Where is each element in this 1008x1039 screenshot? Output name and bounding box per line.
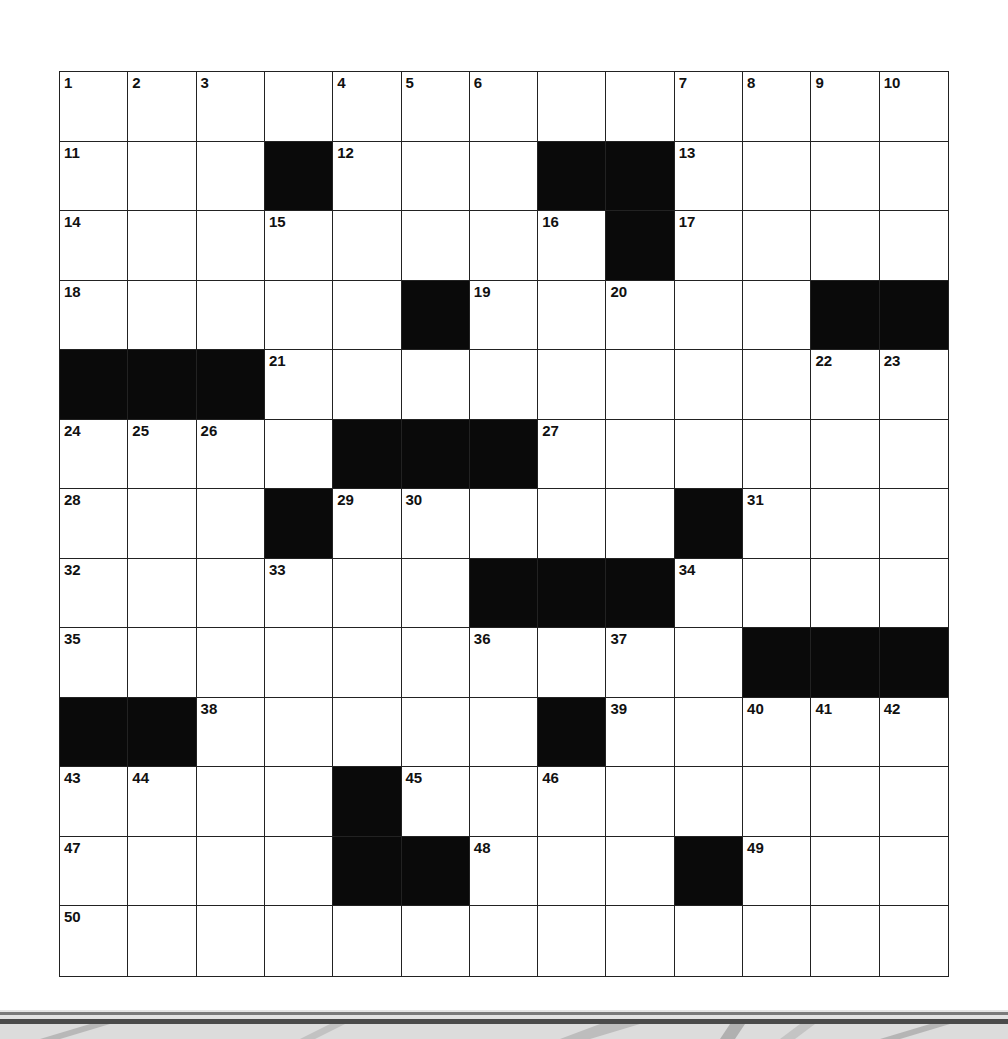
grid-cell[interactable]: 36 [470,628,538,698]
grid-cell[interactable]: 12 [333,142,401,212]
grid-cell[interactable] [333,698,401,768]
grid-cell[interactable]: 46 [538,767,606,837]
grid-cell[interactable] [606,906,674,976]
grid-cell[interactable] [743,420,811,490]
grid-cell[interactable]: 34 [675,559,743,629]
grid-cell[interactable] [197,489,265,559]
grid-cell[interactable] [265,72,333,142]
grid-cell[interactable]: 49 [743,837,811,907]
grid-cell[interactable]: 43 [60,767,128,837]
grid-cell[interactable] [675,906,743,976]
grid-cell[interactable] [128,837,196,907]
grid-cell[interactable]: 45 [402,767,470,837]
grid-cell[interactable] [743,350,811,420]
grid-cell[interactable] [538,837,606,907]
grid-cell[interactable]: 13 [675,142,743,212]
grid-cell[interactable]: 29 [333,489,401,559]
grid-cell[interactable] [538,906,606,976]
grid-cell[interactable] [880,906,948,976]
grid-cell[interactable] [128,489,196,559]
grid-cell[interactable] [675,281,743,351]
grid-cell[interactable]: 16 [538,211,606,281]
grid-cell[interactable] [743,211,811,281]
grid-cell[interactable]: 18 [60,281,128,351]
grid-cell[interactable] [470,211,538,281]
grid-cell[interactable] [402,698,470,768]
grid-cell[interactable] [128,559,196,629]
grid-cell[interactable] [402,350,470,420]
grid-cell[interactable]: 7 [675,72,743,142]
grid-cell[interactable] [333,628,401,698]
grid-cell[interactable] [333,350,401,420]
grid-cell[interactable] [675,628,743,698]
grid-cell[interactable]: 37 [606,628,674,698]
grid-cell[interactable] [265,420,333,490]
grid-cell[interactable]: 38 [197,698,265,768]
grid-cell[interactable]: 23 [880,350,948,420]
grid-cell[interactable] [606,489,674,559]
grid-cell[interactable] [811,906,879,976]
grid-cell[interactable]: 8 [743,72,811,142]
grid-cell[interactable]: 20 [606,281,674,351]
grid-cell[interactable]: 41 [811,698,879,768]
grid-cell[interactable]: 19 [470,281,538,351]
grid-cell[interactable] [538,281,606,351]
grid-cell[interactable]: 47 [60,837,128,907]
grid-cell[interactable] [197,559,265,629]
grid-cell[interactable] [197,628,265,698]
grid-cell[interactable]: 32 [60,559,128,629]
grid-cell[interactable] [402,628,470,698]
grid-cell[interactable] [811,420,879,490]
grid-cell[interactable]: 35 [60,628,128,698]
grid-cell[interactable] [197,211,265,281]
grid-cell[interactable] [880,559,948,629]
grid-cell[interactable] [333,281,401,351]
grid-cell[interactable]: 33 [265,559,333,629]
grid-cell[interactable] [743,559,811,629]
grid-cell[interactable]: 10 [880,72,948,142]
grid-cell[interactable] [333,211,401,281]
grid-cell[interactable] [128,628,196,698]
grid-cell[interactable] [128,906,196,976]
grid-cell[interactable]: 44 [128,767,196,837]
grid-cell[interactable] [880,142,948,212]
grid-cell[interactable] [743,142,811,212]
grid-cell[interactable]: 2 [128,72,196,142]
grid-cell[interactable] [811,767,879,837]
grid-cell[interactable] [880,837,948,907]
grid-cell[interactable] [811,489,879,559]
grid-cell[interactable] [675,420,743,490]
grid-cell[interactable] [265,628,333,698]
grid-cell[interactable] [265,767,333,837]
grid-cell[interactable]: 28 [60,489,128,559]
grid-cell[interactable]: 30 [402,489,470,559]
grid-cell[interactable]: 26 [197,420,265,490]
grid-cell[interactable] [470,142,538,212]
grid-cell[interactable]: 11 [60,142,128,212]
grid-cell[interactable] [538,72,606,142]
grid-cell[interactable] [197,837,265,907]
grid-cell[interactable] [606,72,674,142]
grid-cell[interactable] [265,837,333,907]
grid-cell[interactable] [538,350,606,420]
grid-cell[interactable] [675,350,743,420]
grid-cell[interactable] [606,420,674,490]
grid-cell[interactable] [470,698,538,768]
grid-cell[interactable] [811,837,879,907]
grid-cell[interactable] [675,698,743,768]
grid-cell[interactable]: 3 [197,72,265,142]
grid-cell[interactable] [880,489,948,559]
grid-cell[interactable] [402,142,470,212]
grid-cell[interactable] [197,142,265,212]
grid-cell[interactable] [880,767,948,837]
grid-cell[interactable] [265,906,333,976]
grid-cell[interactable] [675,767,743,837]
grid-cell[interactable]: 24 [60,420,128,490]
grid-cell[interactable]: 25 [128,420,196,490]
grid-cell[interactable] [743,281,811,351]
grid-cell[interactable] [880,211,948,281]
grid-cell[interactable]: 9 [811,72,879,142]
grid-cell[interactable]: 14 [60,211,128,281]
grid-cell[interactable]: 6 [470,72,538,142]
grid-cell[interactable] [197,767,265,837]
